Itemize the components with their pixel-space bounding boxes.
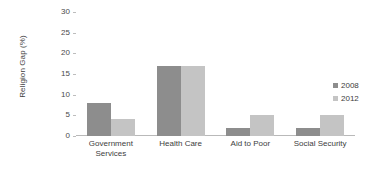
- legend-swatch-icon: [333, 96, 338, 101]
- x-axis-label-line: Social Security: [285, 139, 355, 149]
- x-axis-label: Aid to Poor: [216, 139, 286, 159]
- chart-legend: 20082012: [333, 79, 359, 105]
- y-axis-tick-label: 20: [61, 48, 70, 57]
- legend-swatch-icon: [333, 83, 338, 88]
- bar-group-bars: [146, 12, 216, 136]
- x-axis-label: Health Care: [146, 139, 216, 159]
- y-axis-tick-mark: [73, 136, 76, 137]
- y-axis-tick-label: 25: [61, 28, 70, 37]
- legend-item: 2008: [333, 79, 359, 92]
- x-axis-label: GovernmentServices: [76, 139, 146, 159]
- x-axis-label-line: Health Care: [146, 139, 216, 149]
- bar-2008: [226, 128, 250, 136]
- y-axis-title: Religion Gap (%): [18, 7, 27, 127]
- y-axis-tick-label: 30: [61, 7, 70, 16]
- bar-group-bars: [216, 12, 286, 136]
- bar-2008: [296, 128, 320, 136]
- bar-chart: Religion Gap (%) 051015202530 Government…: [0, 0, 385, 179]
- bar-2012: [181, 66, 205, 136]
- y-axis-tick-label: 15: [61, 69, 70, 78]
- x-axis-label-line: Aid to Poor: [216, 139, 286, 149]
- bar-2012: [320, 115, 344, 136]
- bar-group: [285, 12, 355, 136]
- bar-2012: [111, 119, 135, 136]
- bar-2008: [87, 103, 111, 136]
- bar-group-bars: [76, 12, 146, 136]
- x-axis-labels: GovernmentServicesHealth CareAid to Poor…: [76, 139, 355, 159]
- bar-2008: [157, 66, 181, 136]
- bar-group: [146, 12, 216, 136]
- bar-group: [216, 12, 286, 136]
- y-axis-tick-label: 5: [66, 110, 70, 119]
- plot-area: 051015202530: [76, 12, 355, 136]
- bar-group: [76, 12, 146, 136]
- x-axis-label-line: Government: [76, 139, 146, 149]
- legend-item: 2012: [333, 92, 359, 105]
- bar-group-bars: [285, 12, 355, 136]
- legend-label: 2008: [341, 81, 359, 90]
- y-axis-tick-label: 10: [61, 90, 70, 99]
- legend-label: 2012: [341, 94, 359, 103]
- y-axis-tick-label: 0: [66, 131, 70, 140]
- x-axis-label: Social Security: [285, 139, 355, 159]
- bar-groups: [76, 12, 355, 136]
- bar-2012: [250, 115, 274, 136]
- x-axis-label-line: Services: [76, 149, 146, 159]
